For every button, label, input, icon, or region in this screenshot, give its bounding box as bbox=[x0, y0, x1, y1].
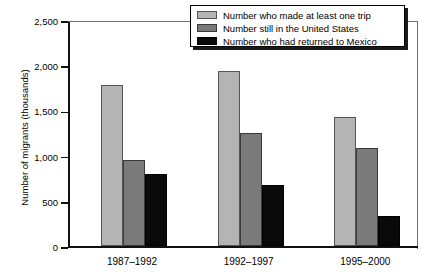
y-axis-tick-label: 500 bbox=[0, 198, 58, 208]
legend-swatch-icon bbox=[197, 37, 217, 45]
bar bbox=[218, 71, 240, 246]
plot-area bbox=[68, 22, 418, 248]
x-axis-category-label: 1992–1997 bbox=[189, 256, 309, 267]
legend-item: Number still in the United States bbox=[197, 22, 404, 34]
bar bbox=[123, 160, 145, 246]
bar-chart: Number of migrants (thousands) 05001,000… bbox=[0, 0, 432, 279]
chart-legend: Number who made at least one trip Number… bbox=[190, 5, 405, 47]
legend-item: Number who had returned to Mexico bbox=[197, 35, 404, 47]
y-axis-tick bbox=[61, 66, 68, 68]
y-axis-tick-label: 1,500 bbox=[0, 107, 58, 117]
y-axis-tick bbox=[61, 157, 68, 159]
y-axis-tick bbox=[61, 112, 68, 114]
y-axis-tick-label: 2,000 bbox=[0, 62, 58, 72]
legend-item: Number who made at least one trip bbox=[197, 9, 404, 21]
y-axis-tick bbox=[61, 202, 68, 204]
x-axis-category-label: 1995–2000 bbox=[305, 256, 425, 267]
legend-item-label: Number who had returned to Mexico bbox=[223, 36, 377, 47]
bar bbox=[378, 216, 400, 246]
y-axis-tick bbox=[61, 21, 68, 23]
bar bbox=[145, 174, 167, 246]
bar bbox=[262, 185, 284, 246]
legend-item-label: Number still in the United States bbox=[223, 23, 359, 34]
legend-swatch-icon bbox=[197, 11, 217, 19]
legend-item-label: Number who made at least one trip bbox=[223, 10, 371, 21]
bar bbox=[240, 133, 262, 246]
bar bbox=[356, 148, 378, 246]
y-axis-tick-label: 1,000 bbox=[0, 153, 58, 163]
y-axis-tick-label: 0 bbox=[0, 243, 58, 253]
bar bbox=[101, 85, 123, 246]
bar bbox=[334, 117, 356, 246]
x-axis-category-label: 1987–1992 bbox=[72, 256, 192, 267]
legend-swatch-icon bbox=[197, 24, 217, 32]
y-axis-tick bbox=[61, 247, 68, 249]
y-axis-tick-label: 2,500 bbox=[0, 17, 58, 27]
